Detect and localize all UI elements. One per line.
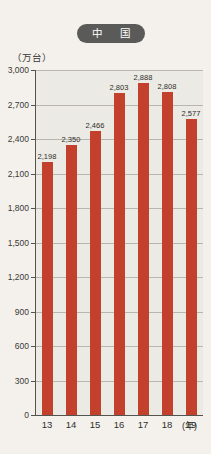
y-tick-label: 900 (15, 307, 29, 317)
y-tick-mark (31, 139, 35, 140)
bar-value-label: 2,808 (158, 82, 177, 91)
y-tick-mark (31, 174, 35, 175)
y-tick-mark (31, 243, 35, 244)
x-tick-label: 14 (66, 419, 77, 430)
x-tick-label: 17 (138, 419, 149, 430)
y-tick-mark (31, 70, 35, 71)
plot-area (35, 70, 203, 415)
bar (114, 93, 125, 415)
y-tick-label: 2,100 (8, 169, 29, 179)
bar-value-label: 2,803 (110, 83, 129, 92)
y-tick-label: 1,200 (8, 272, 29, 282)
x-axis-line (35, 415, 203, 416)
y-tick-label: 0 (24, 410, 29, 420)
bar-value-label: 2,198 (38, 152, 57, 161)
chart-title-badge: 中 国 (77, 24, 145, 43)
bar (138, 83, 149, 415)
x-tick-label: 16 (114, 419, 125, 430)
chart-container: 中 国 （万台） 03006009001,2001,5001,8002,1002… (0, 0, 211, 454)
bar-value-label: 2,466 (86, 121, 105, 130)
y-tick-mark (31, 346, 35, 347)
y-tick-mark (31, 105, 35, 106)
bar-value-label: 2,577 (182, 109, 201, 118)
gridline (35, 70, 203, 71)
bar (66, 145, 77, 415)
y-tick-label: 1,800 (8, 203, 29, 213)
x-tick-label: 18 (162, 419, 173, 430)
bar-value-label: 2,888 (134, 73, 153, 82)
bar (162, 92, 173, 415)
y-tick-label: 600 (15, 341, 29, 351)
y-tick-mark (31, 415, 35, 416)
y-tick-label: 1,500 (8, 238, 29, 248)
bar-value-label: 2,350 (62, 135, 81, 144)
x-axis-unit-label: (年) (182, 419, 197, 432)
x-tick-label: 15 (90, 419, 101, 430)
y-tick-label: 3,000 (8, 65, 29, 75)
bar (186, 119, 197, 415)
y-tick-label: 2,400 (8, 134, 29, 144)
bar (90, 131, 101, 415)
y-tick-mark (31, 277, 35, 278)
y-tick-mark (31, 208, 35, 209)
x-tick-label: 13 (42, 419, 53, 430)
y-tick-label: 300 (15, 376, 29, 386)
bar (42, 162, 53, 415)
y-tick-mark (31, 381, 35, 382)
y-axis-unit-label: （万台） (12, 50, 52, 64)
y-axis-line (35, 70, 36, 416)
y-tick-label: 2,700 (8, 100, 29, 110)
y-tick-mark (31, 312, 35, 313)
